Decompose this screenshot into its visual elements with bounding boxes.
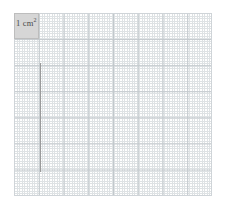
- graph-paper-grid: 1 cm2: [14, 13, 212, 196]
- shaded-unit-square: 1 cm2: [14, 13, 39, 39]
- unit-square-label-exponent: 2: [34, 17, 37, 23]
- unit-square-label-text: 1 cm: [16, 18, 34, 28]
- unit-square-label: 1 cm2: [16, 19, 41, 28]
- grid-outer-frame: [14, 13, 212, 196]
- drawn-vertical-line: [40, 63, 41, 172]
- figure-root: 1 cm2: [0, 0, 226, 209]
